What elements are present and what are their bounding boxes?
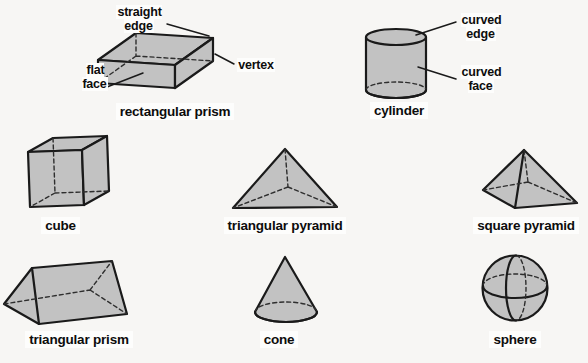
curved-face-label: curved face — [457, 65, 505, 93]
triangular-prism-silhouette — [4, 261, 127, 324]
triangular-pyramid-figure — [233, 149, 337, 208]
triangular-pyramid-caption: triangular pyramid — [205, 219, 365, 234]
vertex-label: vertex — [232, 58, 280, 72]
cone-figure — [255, 257, 317, 322]
flat-face-label: flat face — [78, 63, 112, 91]
cone-caption: cone — [239, 333, 319, 348]
sphere-outline — [483, 256, 548, 321]
cube-front-face — [28, 150, 84, 207]
straight-edge-leader-line — [167, 24, 209, 36]
cube-caption: cube — [20, 219, 101, 234]
cylinder-figure — [366, 29, 426, 98]
rectangular-prism-caption: rectangular prism — [95, 105, 255, 120]
triangular-prism-caption: triangular prism — [0, 333, 158, 348]
triangular-prism-figure — [4, 261, 127, 324]
straight-edge-label: straight edge — [112, 5, 166, 33]
cylinder-body — [366, 37, 426, 98]
cube-figure — [28, 136, 109, 207]
cylinder-top-face — [366, 29, 426, 45]
solids-figure — [0, 0, 588, 363]
square-pyramid-caption: square pyramid — [446, 219, 588, 234]
square-pyramid-figure — [483, 150, 577, 208]
cone-body — [255, 257, 317, 322]
sphere-caption: sphere — [475, 333, 555, 348]
curved-edge-label: curved edge — [457, 13, 505, 41]
sphere-figure — [483, 256, 548, 321]
cylinder-caption: cylinder — [349, 104, 449, 119]
square-pyramid-silhouette — [483, 150, 577, 208]
shapes-diagram: straight edge vertex flat face curved ed… — [0, 0, 588, 363]
curved-edge-leader-line — [416, 22, 456, 35]
rectangular-prism-figure — [98, 33, 213, 88]
